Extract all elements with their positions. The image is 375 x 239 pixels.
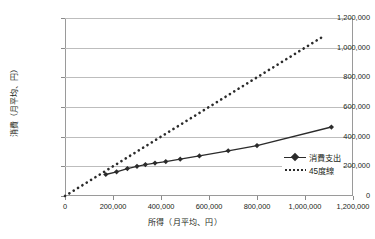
gridline — [65, 18, 353, 19]
x-axis-tick-mark — [305, 196, 306, 200]
legend-label-45-degree-line: 45度線 — [309, 164, 334, 176]
x-axis-tick-mark — [353, 196, 354, 200]
y-axis-tick-label: 600,000 — [312, 103, 370, 111]
y-axis-tick-mark — [61, 166, 65, 167]
y-axis-tick-label: 1,000,000 — [312, 44, 370, 52]
dotted-line-icon — [284, 165, 306, 175]
y-axis-tick-mark — [61, 107, 65, 108]
legend-item-consumption: 消費支出 — [284, 150, 341, 163]
x-axis-title: 所得（月平均、円） — [0, 216, 370, 227]
y-axis-title: 消費（月平均、円） — [8, 36, 19, 166]
chart-legend: 消費支出 45度線 — [282, 149, 343, 177]
x-axis-tick-mark — [209, 196, 210, 200]
x-axis-tick-mark — [113, 196, 114, 200]
y-axis-tick-label: 1,200,000 — [312, 14, 370, 22]
x-axis-tick-mark — [65, 196, 66, 200]
line-diamond-marker-icon — [284, 152, 306, 162]
y-axis-tick-mark — [61, 48, 65, 49]
x-axis-tick-mark — [161, 196, 162, 200]
y-axis-tick-label: 400,000 — [312, 133, 370, 141]
y-axis-tick-label: 0 — [312, 192, 370, 200]
y-axis-tick-mark — [61, 18, 65, 19]
legend-label-consumption: 消費支出 — [309, 151, 341, 163]
x-axis-tick-label: 1,200,000 — [323, 202, 375, 211]
gridline — [65, 48, 353, 49]
y-axis-tick-mark — [61, 77, 65, 78]
legend-item-45-degree-line: 45度線 — [284, 163, 341, 176]
gridline — [65, 137, 353, 138]
gridline — [65, 107, 353, 108]
y-axis-tick-mark — [61, 137, 65, 138]
y-axis-tick-label: 800,000 — [312, 73, 370, 81]
x-axis-tick-mark — [257, 196, 258, 200]
gridline — [65, 77, 353, 78]
